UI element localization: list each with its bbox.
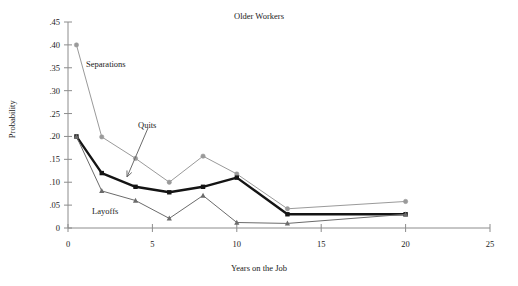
data-point-marker [403, 199, 407, 203]
x-tick-label: 20 [391, 240, 421, 249]
data-point-marker [99, 188, 104, 193]
chart-title: Older Workers [0, 12, 518, 21]
y-tick-label: .45 [30, 18, 60, 27]
data-point-marker [285, 207, 289, 211]
chart-container: Older Workers Probability Years on the J… [0, 0, 518, 286]
annotation-arrows [127, 128, 148, 177]
y-tick-label: .25 [30, 110, 60, 119]
data-point-marker [200, 193, 205, 198]
x-axis-title: Years on the Job [0, 264, 518, 273]
data-point-marker [74, 43, 78, 47]
annotation-arrow-shaft [127, 128, 148, 177]
data-point-marker [100, 171, 104, 175]
data-point-marker [167, 190, 171, 194]
chart-axes [64, 22, 490, 232]
series-line [76, 136, 405, 214]
x-tick-label: 15 [306, 240, 336, 249]
x-tick-label: 0 [53, 240, 83, 249]
data-point-marker [133, 185, 137, 189]
y-tick-label: .20 [30, 132, 60, 141]
data-point-marker [285, 212, 289, 216]
data-point-marker [167, 216, 172, 221]
y-tick-label: .40 [30, 41, 60, 50]
data-point-marker [201, 154, 205, 158]
y-axis-title: Probability [8, 79, 17, 159]
x-tick-label: 10 [222, 240, 252, 249]
series-line [76, 45, 405, 209]
y-tick-label: .35 [30, 64, 60, 73]
data-point-marker [235, 175, 239, 179]
data-point-marker [201, 185, 205, 189]
y-tick-label: .05 [30, 201, 60, 210]
chart-series-group [74, 43, 408, 226]
annotation-label-layoffs: Layoffs [92, 207, 118, 216]
data-point-marker [100, 135, 104, 139]
data-point-marker [167, 180, 171, 184]
x-tick-label: 5 [137, 240, 167, 249]
y-tick-label: 0 [30, 224, 60, 233]
y-tick-label: .10 [30, 178, 60, 187]
y-tick-label: .15 [30, 155, 60, 164]
x-tick-label: 25 [475, 240, 505, 249]
y-tick-label: .30 [30, 87, 60, 96]
annotation-label-quits: Quits [138, 121, 156, 130]
annotation-label-separations: Separations [86, 60, 126, 69]
